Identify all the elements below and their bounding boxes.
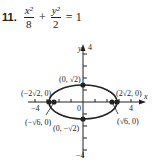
focus-right-point xyxy=(109,99,114,104)
y-tick-4: 4 xyxy=(88,43,92,52)
origin-label: 0 xyxy=(77,104,81,113)
label-vertex-left: (−2√2, 0) xyxy=(21,89,52,98)
focus-left-point xyxy=(51,99,56,104)
label-focus-left: (−√6, 0) xyxy=(25,118,52,127)
label-vertex-right: (2√2, 0) xyxy=(116,89,142,98)
x-tick-neg4: −4 xyxy=(31,104,40,113)
ellipse-graph: y x 4 −4 −4 4 0 (0, √2) (−2√2, 0) (2√2, … xyxy=(0,0,153,160)
y-axis-label: y xyxy=(77,44,82,53)
label-covertex-bottom: (0, −√2) xyxy=(53,124,80,133)
x-axis-label: x xyxy=(143,92,148,101)
label-covertex-top: (0, √2) xyxy=(59,75,81,84)
y-tick-neg4: −4 xyxy=(76,151,85,160)
vertex-left-point xyxy=(46,99,51,104)
x-tick-4: 4 xyxy=(129,104,133,113)
label-focus-right: (√6, 0) xyxy=(117,117,139,126)
covertex-bottom-point xyxy=(80,116,85,121)
covertex-top-point xyxy=(80,82,85,87)
vertex-right-point xyxy=(114,99,119,104)
